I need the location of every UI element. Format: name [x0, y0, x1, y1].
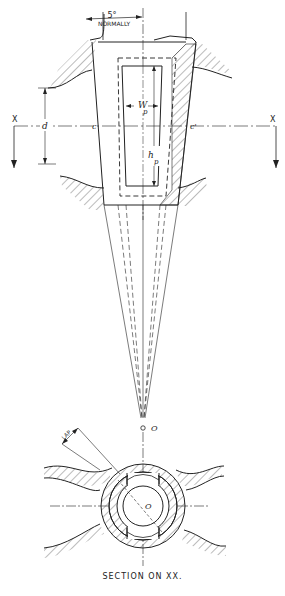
svg-text:p: p: [154, 158, 159, 166]
body-upper-right: [190, 42, 232, 78]
taper-projection-lines: [104, 205, 178, 418]
label-plug-centre-o: O: [145, 502, 152, 511]
apex-point: [141, 426, 145, 430]
svg-text:p: p: [143, 108, 148, 116]
label-c-prime: c': [190, 122, 197, 131]
body-lower-left: [60, 176, 104, 210]
svg-text:NORMALLY: NORMALLY: [98, 20, 131, 27]
body-upper-left: [48, 40, 96, 88]
svg-text:X: X: [270, 115, 276, 124]
label-c: c: [92, 122, 97, 131]
label-apex-o: O: [151, 424, 158, 433]
svg-text:X: X: [12, 115, 18, 124]
svg-text:h: h: [148, 150, 154, 160]
section-caption: SECTION ON XX.: [0, 572, 285, 581]
angle-dimension: 5° NORMALLY: [86, 11, 142, 27]
svg-text:LAP: LAP: [60, 429, 72, 441]
body-lower-right: [178, 176, 208, 206]
plug-bore: [123, 486, 163, 526]
svg-text:d: d: [42, 121, 48, 131]
svg-text:5°: 5°: [107, 11, 116, 20]
valve-diagram: 5° NORMALLY W p h p X X: [0, 0, 285, 596]
